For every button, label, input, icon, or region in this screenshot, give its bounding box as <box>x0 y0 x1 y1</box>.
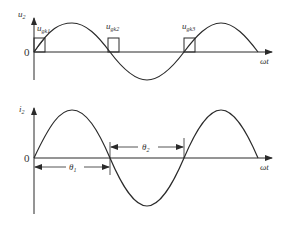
bottom-panel: θ1 θ2 i2 0 ωt <box>19 104 272 214</box>
pulse-label-gk3: ugk3 <box>182 21 195 32</box>
bottom-y-label: i2 <box>19 104 25 115</box>
pulse-label-gk2: ugk2 <box>106 21 119 32</box>
theta2-label: θ2 <box>142 142 149 153</box>
top-panel: u2 0 ωt ugk1 ugk2 ugk3 <box>18 9 272 80</box>
bottom-origin-label: 0 <box>24 152 30 164</box>
pulse-gk1-diagonal <box>34 38 45 52</box>
top-x-label: ωt <box>260 56 269 66</box>
theta1-label: θ1 <box>69 162 76 173</box>
bottom-x-label: ωt <box>260 162 269 172</box>
top-y-label: u2 <box>18 9 26 20</box>
waveform-diagram: u2 0 ωt ugk1 ugk2 ugk3 θ1 θ2 i2 0 ωt <box>0 0 292 227</box>
pulse-gk2 <box>108 38 119 52</box>
pulse-label-gk1: ugk1 <box>37 23 50 34</box>
top-origin-label: 0 <box>24 46 30 58</box>
